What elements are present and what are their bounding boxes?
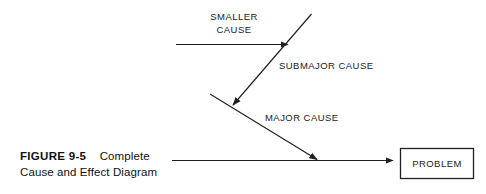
smaller-cause-label: SMALLER CAUSE: [197, 11, 271, 36]
problem-box-label: PROBLEM: [400, 148, 474, 179]
figure-title-line-1: Complete: [100, 150, 150, 162]
figure-container: SMALLER CAUSE SUBMAJOR CAUSE MAJOR CAUSE…: [0, 0, 486, 194]
smaller-cause-label-line-2: CAUSE: [197, 24, 271, 37]
figure-number: FIGURE 9-5: [20, 150, 86, 162]
major-cause-arrow: [210, 94, 317, 160]
figure-caption: FIGURE 9-5 Complete Cause and Effect Dia…: [20, 148, 185, 180]
smaller-cause-label-line-1: SMALLER: [197, 11, 271, 24]
figure-title-line-2: Cause and Effect Diagram: [20, 164, 185, 180]
submajor-cause-label: SUBMAJOR CAUSE: [279, 60, 373, 73]
major-cause-label: MAJOR CAUSE: [265, 112, 339, 125]
figure-caption-line-1: FIGURE 9-5 Complete: [20, 148, 185, 164]
